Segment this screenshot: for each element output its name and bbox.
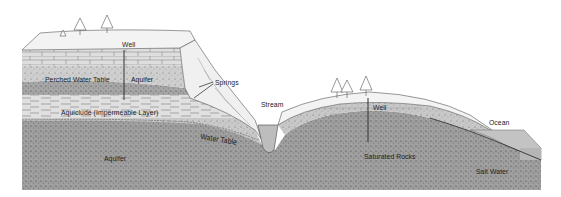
label-aquifer-lower: Aquifer bbox=[104, 154, 126, 163]
label-saturated-rocks: Saturated Rocks bbox=[364, 152, 416, 161]
label-well-left: Well bbox=[122, 40, 135, 49]
label-well-right: Well bbox=[373, 103, 386, 112]
label-springs: Springs bbox=[215, 78, 239, 87]
label-salt-water: Salt Water bbox=[476, 167, 508, 176]
limestone-layer bbox=[22, 48, 182, 66]
label-aquifer-upper: Aquifer bbox=[131, 75, 153, 84]
label-perched-water-table: Perched Water Table bbox=[45, 75, 110, 84]
label-stream: Stream bbox=[261, 100, 283, 109]
label-ocean: Ocean bbox=[489, 118, 509, 127]
plateau-surface bbox=[22, 30, 195, 50]
label-aquiclude: Aquiclude (Impermeable Layer) bbox=[61, 108, 158, 117]
